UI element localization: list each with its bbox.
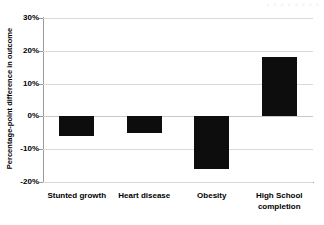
tick-mark <box>39 84 43 85</box>
x-category-label-2: Obesity <box>178 190 246 201</box>
y-tick-label: 20% <box>3 46 39 55</box>
gridline-20 <box>43 51 313 52</box>
gridline-30 <box>43 18 313 19</box>
y-tick-label: -20% <box>3 177 39 186</box>
tick-mark <box>39 116 43 117</box>
plot-area: 30%20%10%0%-10%-20% <box>43 18 313 182</box>
bar-0[interactable] <box>59 116 94 136</box>
y-tick-label: 10% <box>3 79 39 88</box>
y-axis-title: Percentage-point difference in outcome <box>5 14 14 184</box>
gridline--20 <box>43 182 313 183</box>
watermark-text: ▪ ▪ ▪ ▪ ▪ ▪ ▪ ▪ <box>267 0 320 9</box>
tick-mark <box>39 149 43 150</box>
x-category-label-0: Stunted growth <box>43 190 111 201</box>
gridline--10 <box>43 149 313 150</box>
tick-mark <box>39 182 43 183</box>
bar-2[interactable] <box>194 116 229 168</box>
bar-1[interactable] <box>127 116 162 132</box>
bar-3[interactable] <box>262 57 297 116</box>
x-category-label-3: High School completion <box>246 190 314 212</box>
tick-mark <box>39 51 43 52</box>
bar-chart: ▪ ▪ ▪ ▪ ▪ ▪ ▪ ▪ Percentage-point differe… <box>0 0 324 225</box>
x-category-label-1: Heart disease <box>111 190 179 201</box>
y-tick-label: -10% <box>3 144 39 153</box>
tick-mark <box>39 18 43 19</box>
y-tick-label: 0% <box>3 111 39 120</box>
y-tick-label: 30% <box>3 13 39 22</box>
